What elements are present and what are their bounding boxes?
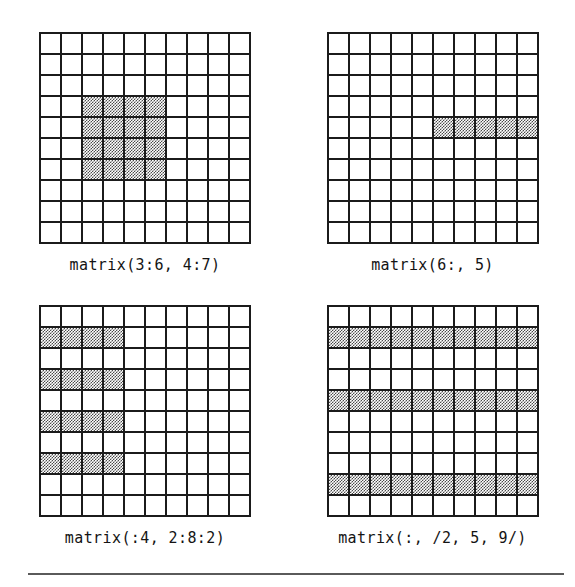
matrix-cell [434,55,455,76]
matrix-cell [209,181,230,202]
matrix-cell [104,307,125,328]
matrix-cell [167,223,188,244]
matrix-cell [125,202,146,223]
matrix-cell [413,181,434,202]
matrix-cell [167,496,188,517]
matrix-cell [230,454,251,475]
matrix-cell [392,34,413,55]
matrix-cell [146,412,167,433]
matrix-cell [188,181,209,202]
matrix-cell-shaded [146,97,167,118]
matrix-cell [188,370,209,391]
matrix-cell [83,223,104,244]
matrix-cell [209,202,230,223]
matrix-cell [146,391,167,412]
matrix-cell [497,433,518,454]
matrix-cell [188,496,209,517]
matrix-cell [434,202,455,223]
matrix-cell [209,391,230,412]
panel-caption-3: matrix(:4, 2:8:2) [65,529,225,547]
matrix-cell [125,412,146,433]
matrix-cell [455,97,476,118]
matrix-cell [413,139,434,160]
matrix-cell [329,202,350,223]
matrix-cell-shaded [62,454,83,475]
matrix-cell [230,76,251,97]
matrix-cell-shaded [104,139,125,160]
matrix-cell [518,97,539,118]
matrix-cell [230,118,251,139]
matrix-cell [188,412,209,433]
matrix-cell [188,76,209,97]
matrix-cell [209,97,230,118]
matrix-cell [350,307,371,328]
matrix-cell [329,412,350,433]
matrix-cell [392,370,413,391]
matrix-cell [146,475,167,496]
matrix-cell [104,475,125,496]
matrix-cell [62,76,83,97]
matrix-cell [413,433,434,454]
matrix-cell [518,370,539,391]
matrix-cell [167,475,188,496]
matrix-cell [476,496,497,517]
matrix-cell [350,202,371,223]
matrix-cell [188,454,209,475]
matrix-cell [41,475,62,496]
matrix-cell [371,76,392,97]
matrix-cell [62,55,83,76]
matrix-cell [392,307,413,328]
matrix-cell-shaded [392,391,413,412]
matrix-cell [497,76,518,97]
matrix-cell [392,55,413,76]
matrix-cell [413,223,434,244]
matrix-cell [476,34,497,55]
matrix-cell [230,55,251,76]
matrix-cell [434,454,455,475]
matrix-cell-shaded [350,391,371,412]
matrix-cell-shaded [455,328,476,349]
matrix-cell [518,202,539,223]
matrix-cell [167,391,188,412]
matrix-cell [146,496,167,517]
matrix-cell [83,433,104,454]
matrix-cell [125,328,146,349]
matrix-cell [413,412,434,433]
matrix-cell-shaded [434,328,455,349]
matrix-cell [434,139,455,160]
matrix-cell-shaded [371,391,392,412]
matrix-cell [209,433,230,454]
matrix-cell-shaded [104,412,125,433]
matrix-cell [125,349,146,370]
matrix-cell [41,223,62,244]
matrix-cell [62,475,83,496]
matrix-cell [209,34,230,55]
matrix-cell [167,433,188,454]
matrix-cell [392,349,413,370]
matrix-cell [413,160,434,181]
matrix-grid-4 [327,305,539,517]
matrix-cell-shaded [104,328,125,349]
matrix-cell [167,370,188,391]
matrix-cell [125,433,146,454]
matrix-cell [146,433,167,454]
matrix-cell-shaded [62,370,83,391]
matrix-cell-shaded [62,412,83,433]
matrix-cell [329,307,350,328]
matrix-cell [83,76,104,97]
matrix-cell [209,118,230,139]
matrix-cell-shaded [350,328,371,349]
matrix-cell [41,391,62,412]
matrix-cell [497,97,518,118]
matrix-cell-shaded [83,412,104,433]
matrix-cell [455,349,476,370]
matrix-cell [41,118,62,139]
matrix-cell [518,76,539,97]
matrix-cell [371,202,392,223]
matrix-cell [230,370,251,391]
matrix-cell [455,76,476,97]
matrix-cell [413,496,434,517]
matrix-cell [167,181,188,202]
matrix-cell-shaded [413,391,434,412]
matrix-cell-shaded [146,139,167,160]
